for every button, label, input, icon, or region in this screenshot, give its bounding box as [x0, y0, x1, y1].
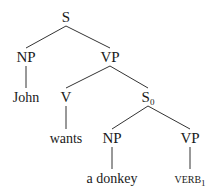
tree-node-wants: wants — [50, 131, 83, 146]
node-label: VERB — [174, 174, 201, 185]
node-label: S — [62, 9, 70, 25]
node-label: V — [61, 89, 72, 105]
node-label: NP — [102, 130, 121, 146]
tree-node-vp2: VP — [180, 130, 199, 146]
node-label: NP — [16, 49, 35, 65]
node-label: John — [13, 90, 39, 105]
tree-edges — [26, 26, 190, 169]
node-label: VP — [180, 130, 199, 146]
tree-node-v: V — [61, 89, 72, 105]
tree-edge-vp1-s0 — [110, 66, 148, 88]
tree-edge-s0-np2 — [112, 106, 148, 129]
node-label: VP — [100, 49, 119, 65]
tree-node-verb1: VERB1 — [174, 174, 205, 188]
node-subscript: 0 — [150, 97, 155, 107]
node-label: wants — [50, 131, 83, 146]
tree-nodes: SNPVPJohnVS0wantsNPVPa donkeyVERB1 — [13, 9, 206, 188]
syntax-tree: SNPVPJohnVS0wantsNPVPa donkeyVERB1 — [0, 0, 208, 196]
tree-node-vp1: VP — [100, 49, 119, 65]
tree-node-np2: NP — [102, 130, 121, 146]
tree-node-donkey: a donkey — [87, 171, 138, 186]
tree-node-john: John — [13, 90, 39, 105]
node-subscript: 1 — [201, 178, 206, 188]
node-label: a donkey — [87, 171, 138, 186]
node-label: S — [142, 89, 150, 105]
tree-edge-vp1-v — [66, 66, 110, 88]
tree-edge-s-vp1 — [66, 26, 110, 48]
tree-edge-s0-vp2 — [148, 106, 190, 129]
tree-node-np1: NP — [16, 49, 35, 65]
tree-node-s0: S0 — [142, 89, 155, 107]
tree-edge-s-np1 — [26, 26, 66, 48]
tree-node-s: S — [62, 9, 70, 25]
